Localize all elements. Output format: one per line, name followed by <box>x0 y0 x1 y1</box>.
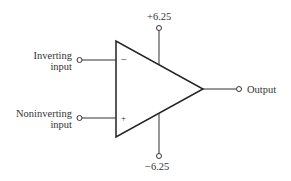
inverting-label-line1: Inverting <box>2 50 72 61</box>
negative-supply-terminal <box>157 154 162 159</box>
positive-supply-terminal <box>157 26 162 31</box>
positive-supply-label: +6.25 <box>147 11 171 22</box>
inverting-input-terminal <box>77 58 82 63</box>
inverting-label-line2: input <box>2 61 72 72</box>
noninverting-input-label: Noninverting input <box>2 108 72 130</box>
negative-supply-label: −6.25 <box>145 161 169 172</box>
output-label: Output <box>247 84 276 95</box>
inverting-sign: − <box>121 54 127 65</box>
noninverting-label-line2: input <box>2 119 72 130</box>
output-terminal <box>237 87 242 92</box>
inverting-input-label: Inverting input <box>2 50 72 72</box>
noninverting-label-line1: Noninverting <box>2 108 72 119</box>
op-amp-diagram: Inverting input Noninverting input − + +… <box>0 0 291 181</box>
noninverting-sign: + <box>121 113 126 124</box>
noninverting-input-terminal <box>77 116 82 121</box>
